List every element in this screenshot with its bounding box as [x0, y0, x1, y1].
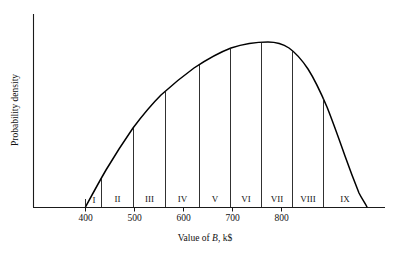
band-label-i: I	[93, 195, 96, 205]
x-tick-label-700: 700	[225, 213, 240, 223]
x-axis-title-prefix: Value of	[178, 233, 212, 243]
x-axis-title-suffix: , k$	[218, 233, 233, 243]
chart-figure: 400 500 600 700 800 I II III IV V VI VII…	[0, 0, 399, 257]
x-tick-label-500: 500	[127, 213, 142, 223]
band-label-iv: IV	[178, 194, 188, 204]
probability-density-chart: 400 500 600 700 800 I II III IV V VI VII…	[0, 0, 399, 257]
band-label-iii: III	[145, 194, 154, 204]
band-label-ii: II	[115, 194, 121, 204]
x-tick-label-800: 800	[274, 213, 289, 223]
x-axis-title: Value of B, k$	[178, 233, 233, 243]
x-tick-label-600: 600	[176, 213, 191, 223]
band-label-ix: IX	[340, 194, 350, 204]
band-label-viii: VIII	[300, 194, 316, 204]
band-label-v: V	[212, 194, 219, 204]
band-label-vii: VII	[271, 194, 284, 204]
density-curve	[86, 42, 368, 207]
x-tick-label-400: 400	[78, 213, 93, 223]
y-axis-title: Probability density	[10, 74, 20, 146]
band-label-vi: VI	[241, 194, 251, 204]
